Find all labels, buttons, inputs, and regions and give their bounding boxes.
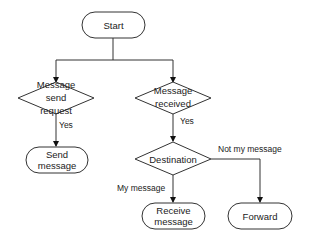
send-message-label-line2: message (38, 160, 77, 171)
destination-label: Destination (149, 154, 197, 165)
node-message-send-request: Message send request (18, 79, 94, 117)
edge-label-yes-left: Yes (59, 120, 73, 130)
node-forward: Forward (228, 203, 292, 229)
message-received-label-line2: received (155, 98, 191, 109)
node-destination: Destination (135, 142, 211, 175)
node-start: Start (82, 12, 145, 38)
send-request-label-line1: Message (37, 79, 76, 90)
node-receive-message: Receive message (142, 203, 205, 229)
edge-destination-to-forward (211, 159, 260, 202)
receive-message-label-line2: message (154, 216, 193, 227)
forward-label: Forward (243, 211, 278, 222)
edge-label-my-message: My message (117, 183, 165, 193)
node-message-received: Message received (135, 82, 211, 114)
edge-label-yes-right: Yes (180, 116, 194, 126)
send-request-label-line3: request (40, 105, 72, 116)
edges (56, 38, 260, 202)
send-message-label-line1: Send (46, 149, 68, 160)
receive-message-label-line1: Receive (156, 205, 190, 216)
node-send-message: Send message (26, 147, 88, 173)
send-request-label-line2: send (46, 92, 67, 103)
edge-label-not-my-message: Not my message (218, 144, 282, 154)
start-label: Start (103, 20, 123, 31)
flowchart-diagram: Start Message send request Message recei… (0, 0, 309, 242)
message-received-label-line1: Message (154, 85, 193, 96)
